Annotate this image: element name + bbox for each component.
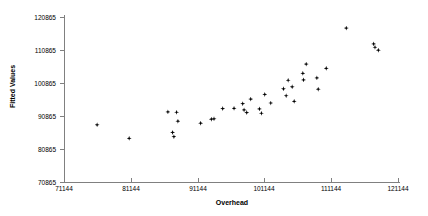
y-axis-tick-label: 100865 <box>16 80 56 87</box>
data-point <box>242 107 247 112</box>
x-axis-tick-label: 81144 <box>109 185 153 193</box>
x-axis-tick-label: 71144 <box>42 185 86 193</box>
data-point <box>268 101 273 106</box>
y-axis-tick-label: 110865 <box>16 47 56 54</box>
data-point <box>95 122 100 127</box>
data-point <box>304 62 309 67</box>
data-point <box>372 45 377 50</box>
y-axis-tick-label: 80865 <box>16 146 56 153</box>
data-point <box>286 78 291 83</box>
data-point <box>292 99 297 104</box>
plot-area <box>64 17 398 182</box>
data-point <box>300 71 305 76</box>
x-axis-tick-label: 121144 <box>376 185 420 193</box>
x-axis-title: Overhead <box>64 199 400 206</box>
scatter-chart: 708658086590865100865110865120865 711448… <box>0 0 428 216</box>
data-point <box>257 106 262 111</box>
data-point <box>301 77 306 82</box>
data-point <box>198 121 203 126</box>
data-point <box>284 93 289 98</box>
data-point <box>281 86 286 91</box>
data-point <box>174 110 179 115</box>
x-axis-tick-label: 111144 <box>309 185 353 193</box>
x-axis-tick-label: 101144 <box>242 185 286 193</box>
data-point <box>232 106 237 111</box>
data-point <box>165 109 170 114</box>
y-axis-title: Fitted Values <box>9 42 16 132</box>
data-point <box>175 119 180 124</box>
data-point <box>316 87 321 92</box>
data-point <box>262 92 267 97</box>
data-point <box>240 101 245 106</box>
data-point <box>212 116 217 121</box>
x-axis-tick-label: 91144 <box>176 185 220 193</box>
data-point <box>259 111 264 116</box>
x-axis-line <box>64 182 400 183</box>
data-point <box>220 106 225 111</box>
data-point <box>290 84 295 89</box>
y-axis-tick-label: 90865 <box>16 113 56 120</box>
data-point <box>248 97 253 102</box>
data-point <box>371 41 376 46</box>
data-point <box>170 130 175 135</box>
data-point <box>344 26 349 31</box>
data-point <box>324 66 329 71</box>
data-point <box>376 48 381 53</box>
x-axis-tick <box>398 178 399 183</box>
y-axis-tick-label: 120865 <box>16 14 56 21</box>
data-point <box>171 134 176 139</box>
data-point <box>127 136 132 141</box>
data-point <box>244 110 249 115</box>
data-point <box>314 75 319 80</box>
